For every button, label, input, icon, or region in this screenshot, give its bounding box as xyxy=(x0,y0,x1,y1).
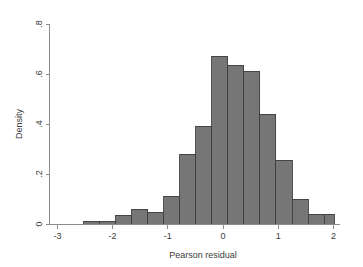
histogram-figure: -3-2-1012 0.2.4.6.8 Pearson residual Den… xyxy=(0,0,363,267)
y-tick-label: .4 xyxy=(34,120,44,128)
histogram-bar xyxy=(212,56,228,224)
histogram-bar xyxy=(100,221,116,224)
histogram-bar xyxy=(196,126,212,224)
histogram-bar xyxy=(324,214,334,224)
x-tick-label: -1 xyxy=(164,231,172,241)
x-tick-label: 1 xyxy=(276,231,281,241)
x-axis-label: Pearson residual xyxy=(169,250,237,260)
histogram-bar xyxy=(164,196,180,224)
histogram-bar xyxy=(116,215,132,224)
histogram-bar xyxy=(84,221,100,224)
histogram-bar xyxy=(308,214,324,224)
histogram-plot: -3-2-1012 0.2.4.6.8 Pearson residual Den… xyxy=(0,0,363,267)
y-tick-label: 0 xyxy=(34,221,44,226)
histogram-bar xyxy=(180,154,196,224)
histogram-bar xyxy=(132,209,148,224)
x-tick-label: -2 xyxy=(109,231,117,241)
x-tick-label: 2 xyxy=(331,231,336,241)
histogram-bar xyxy=(244,71,260,224)
histogram-bar xyxy=(228,65,244,224)
histogram-bar xyxy=(260,114,276,224)
plot-background xyxy=(0,0,363,267)
histogram-bar xyxy=(292,199,308,224)
y-tick-label: .2 xyxy=(34,170,44,178)
x-tick-label: -3 xyxy=(53,231,61,241)
y-axis-label: Density xyxy=(14,108,24,139)
x-tick-label: 0 xyxy=(220,231,225,241)
y-tick-label: .6 xyxy=(34,70,44,78)
histogram-bar xyxy=(276,160,292,224)
histogram-bar xyxy=(148,212,164,224)
y-tick-label: .8 xyxy=(34,20,44,28)
